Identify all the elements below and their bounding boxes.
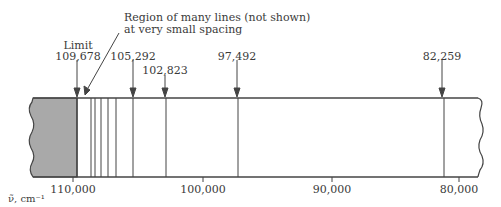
tick-label-100000: 100,000 [180,184,226,196]
line-label-102823: 102,823 [142,65,188,77]
continuum-region [29,98,77,177]
axis-unit-label: ν̃, cm⁻¹ [8,193,45,205]
region-annotation-line2: at very small spacing [124,24,242,36]
band-right-edge [478,98,483,177]
tick-label-90000: 90,000 [313,184,352,196]
spectrum-diagram [0,0,501,207]
axis-ticks [73,177,459,182]
tick-label-80000: 80,000 [440,184,479,196]
unlabeled-series-lines [91,98,116,177]
limit-value: 109,678 [55,51,101,63]
tick-label-110000: 110,000 [50,184,96,196]
line-label-105292: 105,292 [110,51,156,63]
line-label-82259: 82,259 [423,51,462,63]
line-label-97492: 97,492 [218,51,257,63]
